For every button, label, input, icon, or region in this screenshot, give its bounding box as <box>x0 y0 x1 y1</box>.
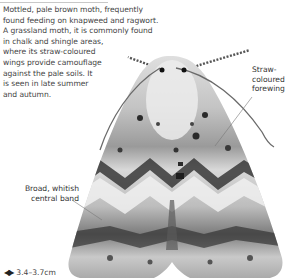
forewing-annotation: Straw- coloured forewing <box>252 65 285 94</box>
band-annotation: Broad, whitish central band <box>14 184 79 203</box>
wingspan-value: 3.4–3.7cm <box>16 268 56 277</box>
annotation-line: Straw- <box>252 65 285 75</box>
wingspan-arrows-icon: ◀▶ <box>4 268 12 277</box>
annotation-line: Broad, whitish <box>14 184 79 194</box>
eye-icon <box>160 68 165 73</box>
wingspan-size: ◀▶ 3.4–3.7cm <box>4 268 56 277</box>
annotation-line: coloured <box>252 75 285 85</box>
eye-icon <box>182 68 187 73</box>
moth-illustration <box>0 0 293 280</box>
annotation-line: forewing <box>252 84 285 94</box>
annotation-line: central band <box>14 194 79 204</box>
